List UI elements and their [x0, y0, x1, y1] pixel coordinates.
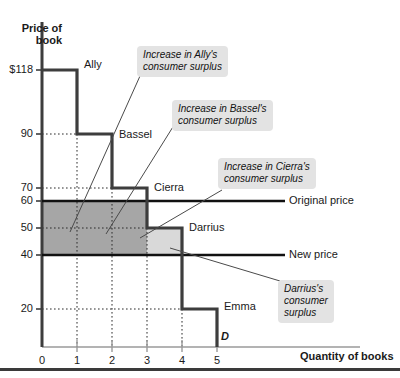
- callout-cierra-surplus: Increase in Cierra's consumer surplus: [218, 158, 316, 189]
- bottom-rule: [0, 368, 400, 371]
- callout-bassel-surplus: Increase in Bassel's consumer surplus: [172, 100, 273, 131]
- y-tick-70: 70: [0, 181, 33, 193]
- buyer-label-ally: Ally: [84, 58, 102, 70]
- x-tick-4: 4: [176, 354, 188, 366]
- y-tick-50: 50: [0, 221, 33, 233]
- chart-container: Price of book Quantity of books $118 90 …: [0, 0, 400, 378]
- plot-frame: [42, 340, 360, 347]
- buyer-label-emma: Emma: [224, 300, 256, 312]
- x-tick-0: 0: [36, 354, 48, 366]
- x-tick-2: 2: [106, 354, 118, 366]
- x-tick-1: 1: [71, 354, 83, 366]
- x-tick-3: 3: [141, 354, 153, 366]
- buyer-label-bassel: Bassel: [119, 128, 152, 140]
- x-tick-5: 5: [211, 354, 223, 366]
- new-price-label: New price: [289, 248, 338, 260]
- buyer-label-cierra: Cierra: [154, 181, 184, 193]
- original-price-label: Original price: [289, 194, 354, 206]
- x-axis-ticks: [77, 340, 217, 352]
- y-axis-title: Price of book: [6, 22, 62, 46]
- y-tick-90: 90: [0, 127, 33, 139]
- callout-darrius-surplus: Darrius's consumer surplus: [278, 280, 334, 323]
- buyer-label-darrius: Darrius: [189, 221, 224, 233]
- y-tick-40: 40: [0, 248, 33, 260]
- y-axis-title-line1: Price of: [6, 22, 62, 34]
- y-tick-20: 20: [0, 302, 33, 314]
- y-tick-60: 60: [0, 194, 33, 206]
- y-tick-118: $118: [0, 63, 33, 75]
- callout-ally-surplus: Increase in Ally's consumer surplus: [137, 46, 228, 77]
- x-axis-title: Quantity of books: [300, 350, 394, 362]
- y-axis-title-line2: book: [6, 34, 62, 46]
- darrius-surplus-region: [147, 228, 182, 255]
- demand-curve-label: D: [221, 330, 229, 342]
